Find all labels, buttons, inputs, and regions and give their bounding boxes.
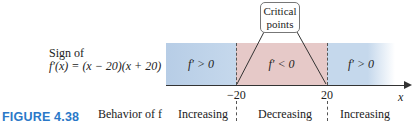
callout-line2: points	[261, 18, 299, 31]
critical-points-callout: Critical points	[260, 2, 300, 33]
callout-line1: Critical	[261, 5, 299, 18]
figure-label: FIGURE 4.38	[2, 110, 79, 124]
